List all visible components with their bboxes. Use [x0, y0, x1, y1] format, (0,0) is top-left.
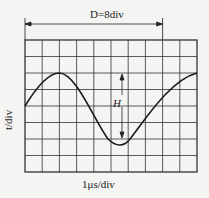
y-axis-label: t/div — [2, 110, 14, 130]
grid — [25, 40, 197, 172]
x-axis-label: 1μs/div — [82, 178, 115, 190]
amplitude-label: H — [113, 97, 121, 109]
span-label: D=8div — [90, 8, 124, 20]
oscilloscope-diagram — [0, 0, 209, 198]
span-indicator — [25, 18, 163, 40]
